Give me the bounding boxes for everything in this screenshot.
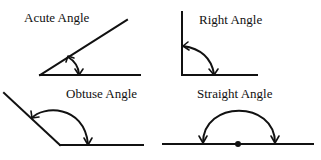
acute-angle-panel: Acute Angle [24,10,140,75]
straight-angle-label: Straight Angle [197,86,273,101]
obtuse-slanted-ray [4,93,60,145]
acute-angle-label: Acute Angle [24,10,90,25]
obtuse-angle-panel: Obtuse Angle [4,86,143,145]
straight-vertex-dot [235,141,241,147]
right-angle-panel: Right Angle [182,12,262,75]
angle-types-diagram: Acute Angle Right Angle Obtuse Angle [0,0,321,160]
straight-arc [203,111,275,143]
acute-upper-ray [40,20,127,75]
straight-angle-panel: Straight Angle [163,86,313,147]
obtuse-angle-label: Obtuse Angle [66,86,137,101]
right-angle-label: Right Angle [199,12,262,27]
